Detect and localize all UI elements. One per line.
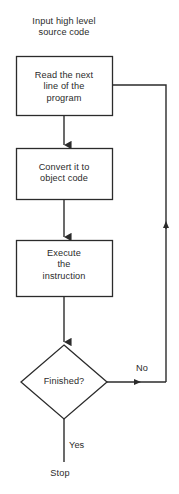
- process-box-execute-label: Execute the instruction: [16, 248, 112, 282]
- edge-label-no: No: [136, 363, 162, 374]
- edge-label-yes: Yes: [69, 440, 95, 451]
- feedback-loop-upper: [113, 85, 167, 229]
- no-branch-arrowhead: [134, 379, 141, 385]
- process-box-read-label: Read the next line of the program: [16, 70, 112, 104]
- terminal-stop-label: Stop: [30, 468, 90, 479]
- flowchart-canvas: Input high level source code Read the ne…: [0, 0, 179, 494]
- feedback-loop-arrowhead-up: [163, 221, 169, 228]
- caption-input-source-code: Input high level source code: [4, 16, 124, 39]
- process-box-convert-label: Convert it to object code: [16, 162, 112, 185]
- decision-diamond-label: Finished?: [19, 376, 109, 387]
